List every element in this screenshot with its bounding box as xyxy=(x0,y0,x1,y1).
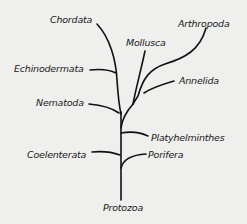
branch-annelida xyxy=(144,81,174,93)
label-chordata: Chordata xyxy=(50,15,92,25)
branch-nematoda xyxy=(89,104,119,113)
branch-porifera xyxy=(121,154,146,168)
label-echinodermata: Echinodermata xyxy=(14,64,84,74)
label-porifera: Porifera xyxy=(148,150,183,160)
label-coelenterata: Coelenterata xyxy=(27,150,86,160)
branch-protostome xyxy=(121,104,133,128)
branch-platyhelminthes xyxy=(121,132,148,136)
phylogenetic-tree-lines xyxy=(0,0,247,224)
label-arthropoda: Arthropoda xyxy=(178,19,230,29)
label-mollusca: Mollusca xyxy=(126,38,166,48)
branch-echinodermata xyxy=(90,70,116,73)
label-nematoda: Nematoda xyxy=(36,98,84,108)
label-protozoa: Protozoa xyxy=(103,203,143,213)
label-annelida: Annelida xyxy=(179,76,219,86)
branch-coelenterata xyxy=(92,152,120,155)
branch-mollusca xyxy=(133,51,145,104)
label-platyhelminthes: Platyhelminthes xyxy=(151,133,225,143)
